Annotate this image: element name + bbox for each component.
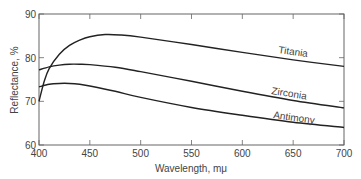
y-tick-label: 70	[25, 96, 37, 107]
x-tick-label: 500	[132, 148, 149, 159]
x-axis-label: Wavelength, mμ	[155, 163, 227, 174]
y-tick-label: 60	[25, 140, 37, 151]
chart-svg: 40045050055060065070060708090 Titania Zi…	[0, 0, 361, 179]
y-tick-label: 80	[25, 53, 37, 64]
reflectance-chart: 40045050055060065070060708090 Titania Zi…	[0, 0, 361, 179]
x-tick-label: 550	[183, 148, 200, 159]
x-tick-label: 650	[285, 148, 302, 159]
x-tick-label: 600	[234, 148, 251, 159]
y-axis-label: Reflectance, %	[9, 46, 20, 113]
series-label-antimony: Antimony	[273, 109, 316, 126]
series-line-zirconia	[39, 64, 344, 108]
x-tick-label: 700	[336, 148, 353, 159]
y-tick-label: 90	[25, 9, 37, 20]
series-label-titania: Titania	[278, 44, 309, 59]
x-tick-label: 450	[81, 148, 98, 159]
plot-frame	[39, 14, 344, 145]
